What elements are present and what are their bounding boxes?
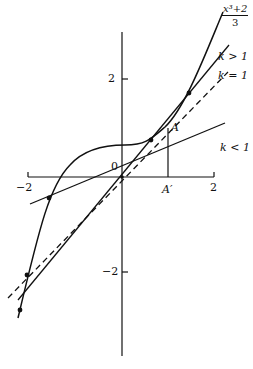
x-tick-label-neg2: −2	[16, 182, 32, 193]
label-k-less-1: k < 1	[220, 142, 250, 153]
curve-label-denominator: 3	[222, 16, 248, 28]
label-point-A-prime: A′	[162, 184, 172, 195]
label-k-equal-1: k = 1	[218, 70, 248, 81]
line-k-equal-1	[8, 72, 228, 298]
label-k-greater-1: k > 1	[218, 51, 248, 62]
line-k-less-1	[30, 123, 225, 204]
label-point-A: A	[171, 122, 179, 133]
intersection-point	[187, 91, 192, 96]
curve-label-numerator: x³+2	[222, 3, 248, 16]
curve-label: x³+2 3	[222, 3, 248, 28]
x-tick-label-pos2: 2	[210, 182, 217, 193]
intersection-point	[149, 138, 154, 143]
cubic-curve	[18, 12, 223, 318]
line-k-greater-1	[18, 45, 229, 300]
intersection-point	[47, 196, 52, 201]
intersection-point	[25, 273, 30, 278]
y-tick-label-neg2: −2	[102, 266, 118, 277]
origin-point	[120, 175, 124, 179]
label-origin: 0	[111, 161, 118, 172]
intersection-point	[18, 308, 23, 313]
y-tick-label-pos2: 2	[108, 73, 115, 84]
